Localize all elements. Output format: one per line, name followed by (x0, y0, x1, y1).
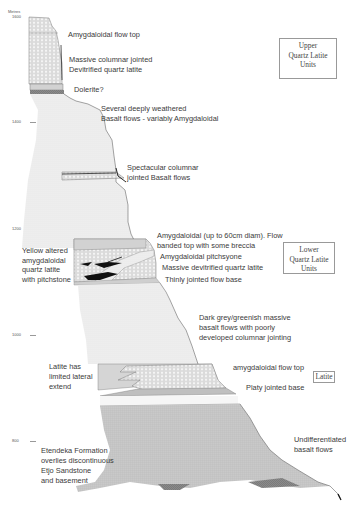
box-line: Lower (287, 245, 331, 255)
dark-grey-basalt-flows (78, 283, 198, 364)
label-line: developed columnar jointing (199, 333, 291, 343)
box-line: Quartz Latite (287, 255, 331, 265)
label-line: Amygdaloidal pitchsyone (160, 252, 242, 262)
label-massive-columnar: Massive columnar jointed Devitrified qua… (69, 55, 152, 75)
label-line: jointed Basalt flows (127, 173, 198, 183)
lower-quartz-latite-unit (74, 239, 160, 285)
upper-quartz-latite-unit (29, 17, 64, 94)
label-line: and basement (41, 476, 114, 486)
label-line: banded top with some breccia (157, 241, 283, 251)
label-line: Etendeka Formation (41, 446, 114, 456)
label-amygdaloidal-flow-top-upper: Amygdaloidal flow top (68, 30, 140, 40)
label-line: Massive columnar jointed (69, 55, 152, 65)
box-line: Latite (314, 372, 334, 382)
label-dolerite: Dolerite? (74, 85, 104, 95)
label-line: extend (49, 382, 93, 392)
label-amygdaloidal-flow-top-lower: amygdaloidal flow top (233, 363, 304, 373)
label-line: Devitrified quartz latite (69, 65, 152, 75)
label-etendeka: Etendeka Formation overlies discontinuou… (41, 446, 114, 486)
label-line: Basalt flows - variably Amygdaloidal (101, 114, 218, 124)
label-line: basalt flows with poorly (199, 323, 291, 333)
box-line: Units (287, 264, 331, 274)
label-line: with pitchstone (22, 275, 71, 285)
label-line: Spectacular columnar (127, 163, 198, 173)
label-columnar-basalt: Spectacular columnar jointed Basalt flow… (127, 163, 198, 183)
label-massive-devitrified: Massive devitrified quartz latite (162, 263, 263, 273)
label-line: limited lateral (49, 372, 93, 382)
upper-quartz-latite-box: Upper Quartz Latite Units (279, 38, 337, 79)
label-dark-grey-basalt: Dark grey/greenish massive basalt flows … (199, 313, 291, 343)
label-line: Etjo Sandstone (41, 466, 114, 476)
label-line: Yellow altered (22, 246, 71, 256)
label-line: Amygdaloidal flow top (68, 30, 140, 40)
box-line: Quartz Latite (283, 51, 333, 61)
latite-box: Latite (313, 371, 335, 383)
label-line: Platy jointed base (246, 383, 304, 393)
label-line: basalt flows (294, 445, 346, 455)
lower-quartz-latite-box: Lower Quartz Latite Units (283, 242, 335, 274)
label-line: amygdaloidal (22, 256, 71, 266)
label-weathered-basalt: Several deeply weathered Basalt flows - … (101, 104, 218, 124)
label-line: quartz latite (22, 265, 71, 275)
latite-unit (98, 364, 240, 406)
label-pitchstone: Amygdaloidal pitchsyone (160, 252, 242, 262)
label-undifferentiated: Undifferentiated basalt flows (294, 435, 346, 455)
label-line: overlies discontinuous (41, 456, 114, 466)
label-line: Dolerite? (74, 85, 104, 95)
label-line: Latite has (49, 362, 93, 372)
label-line: amygdaloidal flow top (233, 363, 304, 373)
label-yellow-altered: Yellow altered amygdaloidal quartz latit… (22, 246, 71, 284)
label-platy-jointed: Platy jointed base (246, 383, 304, 393)
label-line: Amygdaloidal (up to 60cm diam). Flow (157, 231, 283, 241)
box-line: Units (283, 60, 333, 70)
label-latite-limited: Latite has limited lateral extend (49, 362, 93, 392)
label-amygdaloidal-60cm: Amygdaloidal (up to 60cm diam). Flow ban… (157, 231, 283, 251)
label-line: Several deeply weathered (101, 104, 218, 114)
label-line: Undifferentiated (294, 435, 346, 445)
label-thinly-jointed: Thinly jointed flow base (165, 275, 242, 285)
label-line: Dark grey/greenish massive (199, 313, 291, 323)
box-line: Upper (283, 41, 333, 51)
label-line: Thinly jointed flow base (165, 275, 242, 285)
label-line: Massive devitrified quartz latite (162, 263, 263, 273)
